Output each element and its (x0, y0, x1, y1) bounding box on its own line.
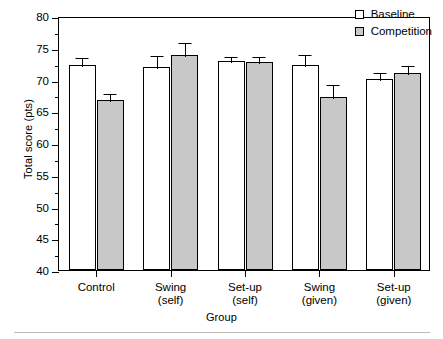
y-tick-minor (55, 129, 59, 130)
bar-baseline-control (69, 65, 96, 270)
x-tick-label: Set-up(self) (228, 281, 262, 307)
y-tick-major (52, 209, 59, 210)
error-bar-cap (373, 73, 386, 74)
y-tick-minor (55, 97, 59, 98)
y-tick-major (52, 18, 59, 19)
footer-divider (14, 332, 430, 333)
legend-label: Competition (371, 26, 432, 38)
white-square-icon (355, 10, 364, 19)
x-tick-label-line-2: (given) (302, 294, 337, 307)
y-tick-label: 45 (36, 235, 49, 247)
x-tick-label-line-2: (self) (155, 294, 186, 307)
error-bar-cap (401, 66, 414, 67)
legend-item-competition: Competition (355, 24, 432, 39)
y-tick-major (52, 177, 59, 178)
bar-baseline-swing-self (143, 67, 170, 270)
error-bar-whisker (380, 73, 381, 81)
x-axis-title: Group (0, 311, 443, 323)
x-tick-label-line-1: Set-up (376, 281, 411, 294)
x-tick-label-line-2: (self) (228, 294, 262, 307)
y-tick-label: 80 (36, 12, 49, 24)
y-tick-label: 75 (36, 44, 49, 56)
x-tick (319, 270, 320, 277)
y-tick-label: 60 (36, 139, 49, 151)
y-axis-title: Total score (pts) (22, 59, 34, 219)
error-bar-whisker (333, 85, 334, 98)
x-tick (96, 270, 97, 277)
error-bar-cap (327, 85, 340, 86)
figure-bar-chart: Total score (pts) 404550556065707580 Con… (0, 0, 443, 339)
y-tick-major (52, 272, 59, 273)
bar-competition-control (97, 100, 124, 270)
error-bar-whisker (82, 58, 83, 67)
y-tick-minor (55, 224, 59, 225)
x-tick (394, 270, 395, 277)
x-tick-label-line-1: Set-up (228, 281, 262, 294)
plot-area: 404550556065707580 ControlSwing(self)Set… (58, 17, 430, 271)
y-tick-major (52, 145, 59, 146)
x-tick-label: Swing(self) (155, 281, 186, 307)
x-tick-label-line-1: Swing (302, 281, 337, 294)
error-bar-whisker (110, 94, 111, 102)
y-tick-minor (55, 256, 59, 257)
chart-legend: BaselineCompetition (355, 7, 432, 41)
legend-item-baseline: Baseline (355, 7, 432, 22)
y-tick-label: 70 (36, 76, 49, 88)
error-bar-whisker (305, 55, 306, 66)
y-tick-minor (55, 193, 59, 194)
bar-competition-swing-self (171, 55, 198, 270)
y-tick-label: 40 (36, 266, 49, 278)
error-bar-cap (104, 94, 117, 95)
bar-baseline-swing-given (292, 65, 319, 270)
error-bar-cap (76, 58, 89, 59)
error-bar-whisker (408, 66, 409, 76)
y-tick-major (52, 113, 59, 114)
bar-competition-set-up-self (246, 62, 273, 270)
error-bar-whisker (185, 43, 186, 57)
y-tick-label: 65 (36, 108, 49, 120)
y-tick-major (52, 240, 59, 241)
x-tick-label: Control (78, 281, 115, 294)
error-bar-cap (178, 43, 191, 44)
error-bar-whisker (259, 57, 260, 64)
error-bar-cap (225, 57, 238, 58)
error-bar-whisker (157, 56, 158, 69)
bar-baseline-set-up-self (218, 61, 245, 270)
x-tick-label-line-1: Control (78, 281, 115, 294)
x-tick-label-line-1: Swing (155, 281, 186, 294)
bar-competition-swing-given (320, 97, 347, 270)
x-tick (245, 270, 246, 277)
y-tick-major (52, 50, 59, 51)
error-bar-cap (299, 55, 312, 56)
error-bar-cap (150, 56, 163, 57)
y-tick-minor (55, 34, 59, 35)
x-tick-label: Swing(given) (302, 281, 337, 307)
y-tick-label: 55 (36, 171, 49, 183)
gray-square-icon (355, 27, 364, 36)
x-tick (171, 270, 172, 277)
y-tick-minor (55, 161, 59, 162)
bar-baseline-set-up-given (366, 79, 393, 270)
error-bar-cap (253, 57, 266, 58)
x-tick-label-line-2: (given) (376, 294, 411, 307)
y-tick-label: 50 (36, 203, 49, 215)
y-tick-minor (55, 66, 59, 67)
bar-competition-set-up-given (394, 73, 421, 270)
y-tick-major (52, 82, 59, 83)
x-tick-label: Set-up(given) (376, 281, 411, 307)
legend-label: Baseline (371, 9, 415, 21)
